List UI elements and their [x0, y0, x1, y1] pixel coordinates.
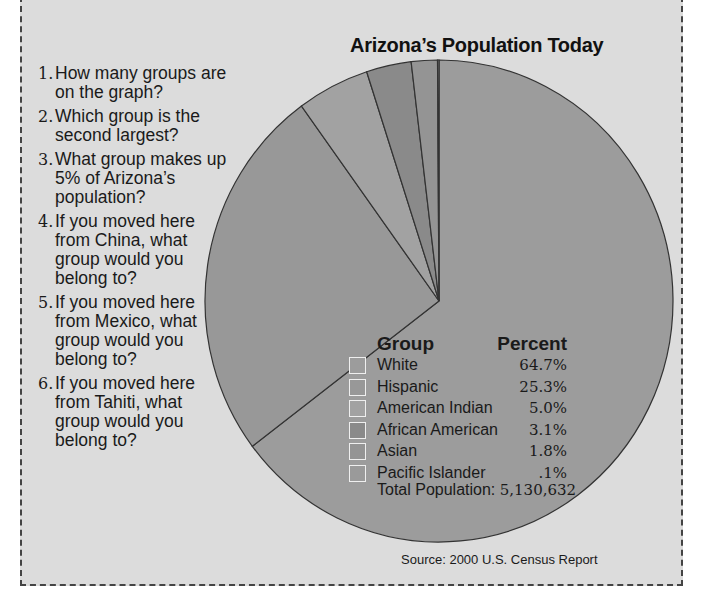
- source-note: Source: 2000 U.S. Census Report: [401, 552, 598, 567]
- legend-swatch: [349, 443, 366, 460]
- pie-chart: [0, 0, 707, 599]
- legend-percent: .1%: [538, 464, 567, 482]
- legend-label: Pacific Islander: [377, 464, 486, 482]
- legend-item: Hispanic25.3%: [377, 377, 567, 399]
- legend-label: American Indian: [377, 399, 493, 417]
- legend-label: White: [377, 356, 418, 374]
- legend-item: American Indian5.0%: [377, 398, 567, 420]
- legend-percent: 5.0%: [529, 399, 567, 417]
- chart-title: Arizona’s Population Today: [350, 34, 603, 57]
- legend-swatch: [349, 357, 366, 374]
- legend-label: African American: [377, 421, 498, 439]
- legend-header: Group Percent: [377, 333, 567, 355]
- legend-percent: 1.8%: [529, 442, 567, 460]
- legend-percent: 64.7%: [519, 356, 567, 374]
- legend-label: Asian: [377, 442, 417, 460]
- legend-percent-header: Percent: [497, 333, 567, 355]
- legend-swatch: [349, 422, 366, 439]
- legend-swatch: [349, 400, 366, 417]
- total-population: Total Population: 5,130,632: [377, 481, 576, 499]
- legend-swatch: [349, 379, 366, 396]
- legend-group-header: Group: [377, 333, 434, 355]
- legend-item: White64.7%: [377, 355, 567, 377]
- legend-percent: 3.1%: [529, 421, 567, 439]
- legend: Group Percent White64.7%Hispanic25.3%Ame…: [377, 333, 567, 484]
- legend-item: Asian1.8%: [377, 441, 567, 463]
- legend-swatch: [349, 465, 366, 482]
- legend-percent: 25.3%: [519, 378, 567, 396]
- legend-label: Hispanic: [377, 378, 438, 396]
- legend-item: African American3.1%: [377, 420, 567, 442]
